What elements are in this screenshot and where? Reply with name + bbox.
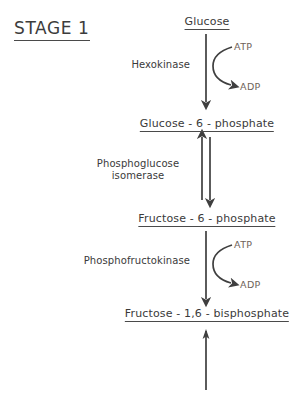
glycolysis-stage-1-diagram: STAGE 1 Glucose Glucose - 6 - phosphate … <box>0 0 302 400</box>
metabolite-fructose-6-phosphate: Fructose - 6 - phosphate <box>138 213 275 227</box>
continuation-arrow <box>203 329 210 390</box>
hexokinase-reaction-arrow <box>206 34 232 102</box>
cofactor-atp-phosphofructokinase: ATP <box>234 240 253 250</box>
enzyme-hexokinase: Hexokinase <box>131 60 190 70</box>
page-title: STAGE 1 <box>14 20 90 41</box>
enzyme-phosphofructokinase: Phosphofructokinase <box>84 256 190 266</box>
metabolite-glucose: Glucose <box>185 16 230 30</box>
cofactor-adp-hexokinase: ADP <box>240 82 261 92</box>
enzyme-phosphoglucose-isomerase: Phosphoglucose isomerase <box>86 158 190 181</box>
atp-to-adp-curve-phosphofructokinase <box>213 245 232 283</box>
metabolite-fructose-1-6-bisphosphate: Fructose - 1,6 - bisphosphate <box>125 308 289 322</box>
phosphofructokinase-reaction-arrow <box>206 231 232 299</box>
atp-to-adp-curve-hexokinase <box>213 47 232 85</box>
phosphoglucose-isomerase-reaction-arrow <box>202 137 210 200</box>
cofactor-adp-phosphofructokinase: ADP <box>240 280 261 290</box>
cofactor-atp-hexokinase: ATP <box>234 42 253 52</box>
metabolite-glucose-6-phosphate: Glucose - 6 - phosphate <box>140 118 274 132</box>
